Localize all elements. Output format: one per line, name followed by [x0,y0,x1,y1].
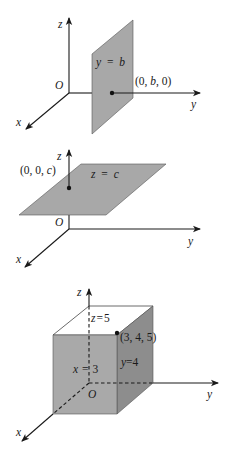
figure-box-3-4-5: z y x O z=5 x=3 y=4 (3, 4, 5) [15,286,218,441]
point-label-part: ) [52,164,56,177]
figure-plane-z-equals-c: z y x O z = c (0, 0, c) [15,150,200,267]
eq-lhs: x [72,363,79,375]
eq-lhs: y [95,56,102,69]
origin-label: O [88,388,97,400]
eq-sign: = [82,363,89,375]
point-label: (3, 4, 5) [120,331,157,344]
eq-sign: = [96,312,103,324]
eq-lhs: z [90,168,96,180]
origin-label: O [55,79,64,91]
y-axis-label: y [190,98,197,111]
y-axis-label: y [187,235,194,248]
y-axis-label: y [206,388,213,401]
figure-plane-y-equals-b: z y x O y = b (0, b, 0) [15,18,200,134]
x-axis-label: x [15,116,22,128]
z-axis-label: z [57,18,63,30]
coordinate-diagrams: z y x O y = b (0, b, 0) z y x O z = c (0… [0,0,227,455]
face-label-side: y=4 [120,356,139,369]
x-axis [22,414,53,441]
z-axis-label: z [56,150,62,162]
eq-rhs: 4 [133,356,139,368]
point-label: (0, b, 0) [135,75,172,88]
eq-sign: = [107,56,114,68]
point-label-part: , 0) [156,75,172,88]
z-axis-label: z [76,286,82,298]
point-label: (0, 0, c) [20,164,56,177]
point-label-part: (0, 0, [20,164,47,177]
point-3-4-5 [115,331,119,335]
x-axis [26,93,69,129]
eq-rhs: c [114,168,119,180]
eq-rhs: b [119,56,125,68]
x-axis-label: x [15,253,22,265]
origin-label: O [55,216,64,228]
plane-equation-label: z = c [90,168,119,180]
eq-rhs: 3 [93,363,99,375]
eq-sign: = [101,168,108,180]
point-0-0-c [67,186,71,190]
point-0-b-0 [110,91,114,95]
point-label-part: (0, [135,75,150,88]
plane-equation-label: y = b [95,56,125,69]
face-label-top: z=5 [90,312,110,324]
face-label-front: x=3 [72,363,99,375]
eq-lhs: z [90,312,96,324]
x-axis [25,229,69,267]
eq-rhs: 5 [104,312,110,324]
plane-y-b [92,20,133,134]
x-axis-label: x [15,426,22,438]
